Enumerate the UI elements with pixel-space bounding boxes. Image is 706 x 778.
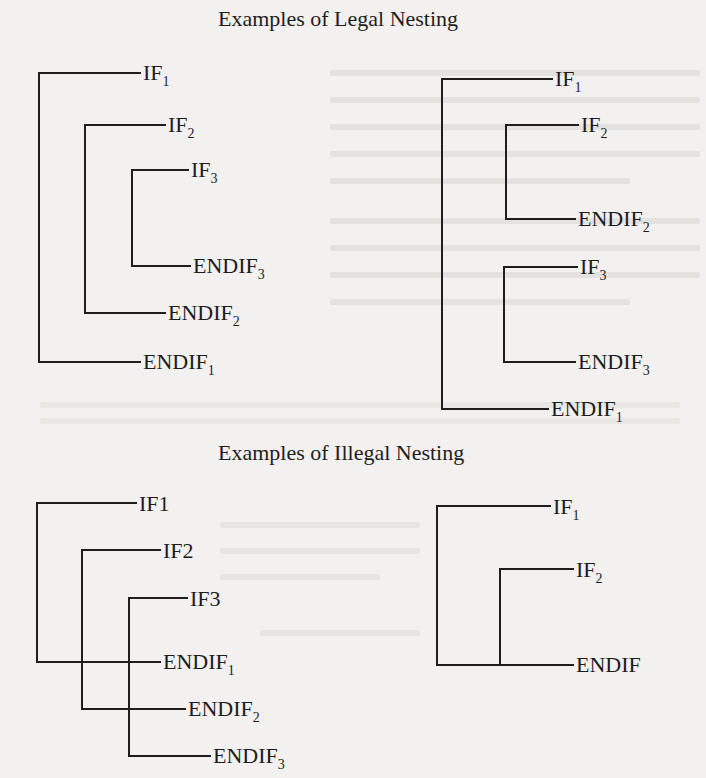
label-if1: IF1 — [553, 494, 580, 523]
label-endif2: ENDIF2 — [188, 696, 260, 725]
label-endif3: ENDIF3 — [578, 349, 650, 378]
label-endif1: ENDIF1 — [551, 396, 623, 425]
label-endif3: ENDIF3 — [193, 253, 265, 282]
label-endif2: ENDIF2 — [578, 206, 650, 235]
nesting-diagrams: IF1 IF2 IF3 ENDIF3 ENDIF2 ENDIF1 IF1 IF2… — [0, 0, 706, 778]
label-if3: IF3 — [580, 254, 607, 283]
label-if2: IF2 — [168, 112, 195, 141]
label-endif3: ENDIF3 — [213, 743, 285, 772]
label-if3: IF3 — [191, 157, 218, 186]
label-endif1: ENDIF1 — [143, 349, 215, 378]
label-if3: IF3 — [190, 586, 221, 611]
label-if1: IF1 — [555, 66, 582, 95]
label-if1: IF1 — [143, 60, 170, 89]
label-if2: IF2 — [576, 557, 603, 586]
label-endif: ENDIF — [576, 652, 641, 677]
label-if2: IF2 — [581, 112, 608, 141]
legal-sequential-diagram: IF1 IF2 ENDIF2 IF3 ENDIF3 ENDIF1 — [442, 66, 650, 425]
illegal-crossed-diagram: IF1 IF2 IF3 ENDIF1 ENDIF2 ENDIF3 — [37, 491, 285, 772]
label-endif1: ENDIF1 — [163, 649, 235, 678]
label-if2: IF2 — [163, 538, 194, 563]
legal-nested-diagram: IF1 IF2 IF3 ENDIF3 ENDIF2 ENDIF1 — [39, 60, 265, 378]
label-endif2: ENDIF2 — [168, 300, 240, 329]
illegal-shared-endif-diagram: IF1 IF2 ENDIF — [437, 494, 641, 677]
label-if1: IF1 — [139, 491, 170, 516]
